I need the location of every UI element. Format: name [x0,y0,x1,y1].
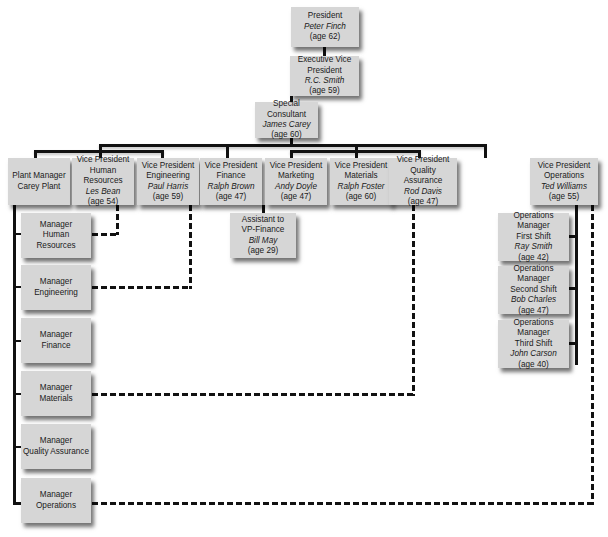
tick-fin [13,340,21,342]
person-age: (age 29) [248,246,279,256]
tick-eng [13,286,21,288]
plant-manager-box[interactable]: Plant Manager Carey Plant [8,158,70,205]
person-name: James Carey [262,120,310,130]
box-title: Assistant to [242,215,284,225]
box-title: Operations Manager [500,264,567,285]
person-age: (age 47) [408,197,439,207]
dept: Operations [544,171,584,181]
person-age: (age 60) [271,130,302,140]
bus-left [34,150,164,153]
manager-finance[interactable]: Manager Finance [21,318,91,363]
plant-manager-trunk [13,205,16,504]
manager-operations[interactable]: Manager Operations [21,478,91,523]
main-bus [99,144,486,147]
evp-box[interactable]: Executive Vice President R.C. Smith (age… [290,56,359,96]
person-age: (age 42) [518,253,549,263]
box-subtitle: Carey Plant [18,182,61,192]
person-name: John Carson [510,349,556,359]
box-title: Vice President [205,161,258,171]
vp-qa-box[interactable]: Vice President Quality Assurance Rod Dav… [389,158,457,205]
person-name: Andy Doyle [275,182,317,192]
ops-manager-first-shift[interactable]: Operations Manager First Shift Ray Smith… [498,213,569,261]
manager-engineering[interactable]: Manager Engineering [21,265,91,310]
box-title: Manager [40,383,72,393]
dept: Quality Assurance [391,166,455,187]
box-title: Manager [40,490,72,500]
box-title: Executive Vice President [292,55,357,76]
person-age: (age 47) [216,192,247,202]
person-age: (age 59) [153,192,184,202]
dept: Engineering [146,171,190,181]
person-name: Peter Finch [304,22,346,32]
dept: Materials [344,171,377,181]
dept: Quality Assurance [23,447,89,457]
operations-trunk [575,205,578,365]
dept: Finance [41,341,70,351]
drop-eng-vp [161,150,164,158]
box-title: Vice President [270,161,323,171]
vp-finance-box[interactable]: Vice President Finance Ralph Brown (age … [200,158,262,205]
dashed-ops-h [92,502,594,505]
tick-mat [13,393,21,395]
dept: Finance [216,171,245,181]
manager-quality-assurance[interactable]: Manager Quality Assurance [21,424,91,469]
person-age: (age 47) [518,306,549,316]
person-age: (age 59) [309,86,340,96]
box-title: Plant Manager [12,171,65,181]
tick-qa [13,446,21,448]
person-name: Ralph Brown [208,182,255,192]
shift: Second Shift [510,285,556,295]
dashed-ops-v [591,205,594,505]
dept: Marketing [278,171,314,181]
dashed-mat-v [412,205,415,396]
box-title: Manager [40,330,72,340]
dept: Operations [36,501,76,511]
tick-shift3 [569,342,577,345]
dashed-mat-h [92,393,415,396]
consultant-box[interactable]: Special Consultant James Carey (age 60) [255,102,318,138]
shift: Third Shift [515,339,552,349]
dept: Human Resources [23,230,89,251]
person-name: R.C. Smith [305,76,345,86]
ops-manager-third-shift[interactable]: Operations Manager Third Shift John Cars… [498,320,569,368]
box-title: Vice President [397,155,450,165]
box-title: Vice President [538,161,591,171]
tick-shift1 [569,235,577,238]
shift: First Shift [516,232,551,242]
vp-marketing-box[interactable]: Vice President Marketing Andy Doyle (age… [265,158,327,205]
person-name: Bill May [249,236,278,246]
president-box[interactable]: President Peter Finch (age 62) [291,7,359,47]
box-title: Manager [40,220,72,230]
assistant-box[interactable]: Assistant to VP-Finance Bill May (age 29… [230,213,296,258]
person-age: (age 60) [346,192,377,202]
vp-hr-box[interactable]: Vice President Human Resources Les Bean … [72,158,134,205]
bus-right [290,150,421,153]
vp-engineering-box[interactable]: Vice President Engineering Paul Harris (… [137,158,199,205]
dept: Human Resources [74,166,132,187]
person-age: (age 62) [310,32,341,42]
box-title: Operations Manager [500,318,567,339]
drop-ops-vp [484,144,487,158]
tick-ops [13,502,21,505]
tick-shift2 [569,287,577,290]
dept: Engineering [34,288,78,298]
person-name: Bob Charles [511,295,556,305]
manager-materials[interactable]: Manager Materials [21,371,91,416]
drop-plant-manager [34,150,37,158]
dashed-eng-h [92,286,192,289]
box-title: Special Consultant [257,99,316,120]
box-title: Vice President [335,161,388,171]
manager-human-resources[interactable]: Manager Human Resources [21,213,91,258]
person-name: Ted Williams [541,182,587,192]
ops-manager-second-shift[interactable]: Operations Manager Second Shift Bob Char… [498,266,569,314]
person-name: Ray Smith [515,242,553,252]
vp-operations-box[interactable]: Vice President Operations Ted Williams (… [530,158,598,205]
person-age: (age 54) [88,197,119,207]
person-name: Ralph Foster [338,182,385,192]
box-title: Manager [40,436,72,446]
dept: Materials [39,394,72,404]
box-title: Vice President [142,161,195,171]
vp-materials-box[interactable]: Vice President Materials Ralph Foster (a… [330,158,392,205]
person-age: (age 40) [518,360,549,370]
person-age: (age 47) [281,192,312,202]
